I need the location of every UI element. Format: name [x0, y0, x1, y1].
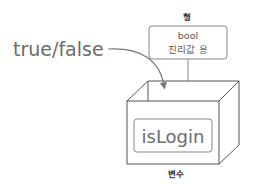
assignment-arrow-icon [108, 49, 164, 86]
box-top-left-diagonal [127, 81, 148, 101]
box-bottom-right-diagonal [219, 145, 239, 164]
type-header-label: 형 [183, 12, 191, 22]
type-name: bool [178, 30, 198, 41]
diagram-canvas: 형 bool 진리값 용 true/false isLogin 변수 [0, 0, 254, 188]
type-description: 진리값 용 [168, 44, 207, 55]
value-label: true/false [13, 38, 104, 60]
variable-name: isLogin [142, 126, 205, 147]
box-top-right-diagonal [219, 81, 239, 101]
variable-box-diagram: 형 bool 진리값 용 true/false isLogin 변수 [0, 0, 254, 188]
variable-caption: 변수 [168, 169, 184, 179]
